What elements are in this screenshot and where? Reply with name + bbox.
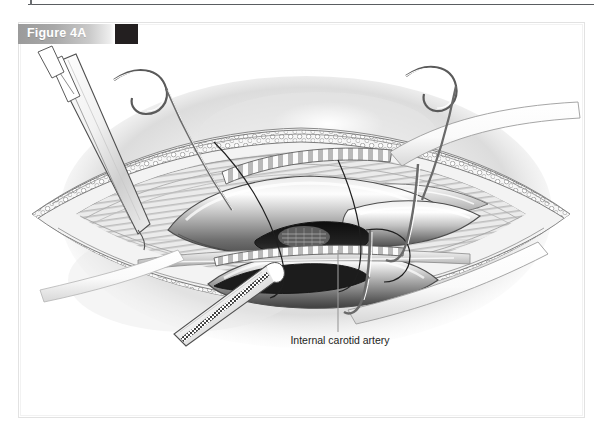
illustration-stage: [18, 44, 585, 364]
surgical-illustration: [18, 44, 585, 364]
page-top-rule-tick: [30, 0, 32, 5]
figure-color-swatch: [115, 24, 138, 44]
figure-page: Figure 4A: [0, 0, 600, 430]
page-top-rule: [28, 4, 594, 5]
figure-caption: Internal carotid artery: [240, 334, 440, 346]
figure-label: Figure 4A: [27, 26, 86, 40]
plaque: [278, 226, 330, 248]
